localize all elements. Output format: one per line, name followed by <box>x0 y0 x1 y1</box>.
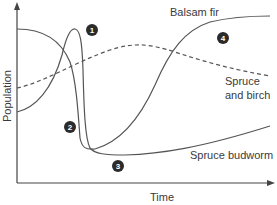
svg-text:3: 3 <box>116 162 121 171</box>
x-axis-label: Time <box>150 191 174 203</box>
badge-2: 2 <box>64 121 76 133</box>
svg-text:4: 4 <box>221 34 226 43</box>
y-axis-arrow-icon <box>14 2 20 10</box>
balsam-fir-label: Balsam fir <box>170 6 219 18</box>
badge-4: 4 <box>217 32 229 44</box>
spruce-birch-label-line1: Spruce <box>225 75 260 87</box>
y-axis-label: Population <box>1 70 13 122</box>
badge-3: 3 <box>112 160 124 172</box>
x-axis-arrow-icon <box>267 180 275 186</box>
spruce-birch-label-line2: and birch <box>225 89 270 101</box>
spruce-budworm-label: Spruce budworm <box>190 149 273 161</box>
svg-text:1: 1 <box>90 26 95 35</box>
population-chart: Balsam fir Spruce and birch Spruce budwo… <box>0 0 277 205</box>
badge-1: 1 <box>86 24 98 36</box>
svg-text:2: 2 <box>68 123 73 132</box>
